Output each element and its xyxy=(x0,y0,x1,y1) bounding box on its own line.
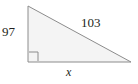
horizontal-leg-label: x xyxy=(66,66,71,78)
vertical-leg-label: 97 xyxy=(2,25,15,38)
hypotenuse-label: 103 xyxy=(81,16,101,29)
right-triangle-figure: 97 103 x xyxy=(0,0,138,84)
triangle-body xyxy=(28,6,131,62)
